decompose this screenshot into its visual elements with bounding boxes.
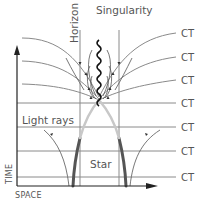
ct-label: CT (181, 28, 195, 39)
light-rays-label: Light rays (22, 114, 74, 126)
ct-labels: CT CT CT CT CT CT CT (181, 28, 195, 183)
black-hole-spacetime-diagram: CT CT CT CT CT CT CT Singularity Horizon… (0, 0, 202, 211)
singularity-label: Singularity (96, 4, 152, 16)
ct-label: CT (181, 122, 195, 133)
ct-label: CT (181, 172, 195, 183)
horizon-label: Horizon (68, 3, 80, 43)
space-axis-label: SPACE (15, 191, 42, 200)
ct-label: CT (181, 75, 195, 86)
star-label: Star (90, 158, 112, 170)
time-axis-label: TIME (5, 164, 14, 185)
time-axis-arrow-icon (14, 45, 20, 55)
ct-label: CT (181, 146, 195, 157)
space-axis-arrow-icon (146, 183, 158, 189)
ct-label: CT (181, 98, 195, 109)
ct-label: CT (181, 52, 195, 63)
star-worldline (73, 100, 126, 186)
